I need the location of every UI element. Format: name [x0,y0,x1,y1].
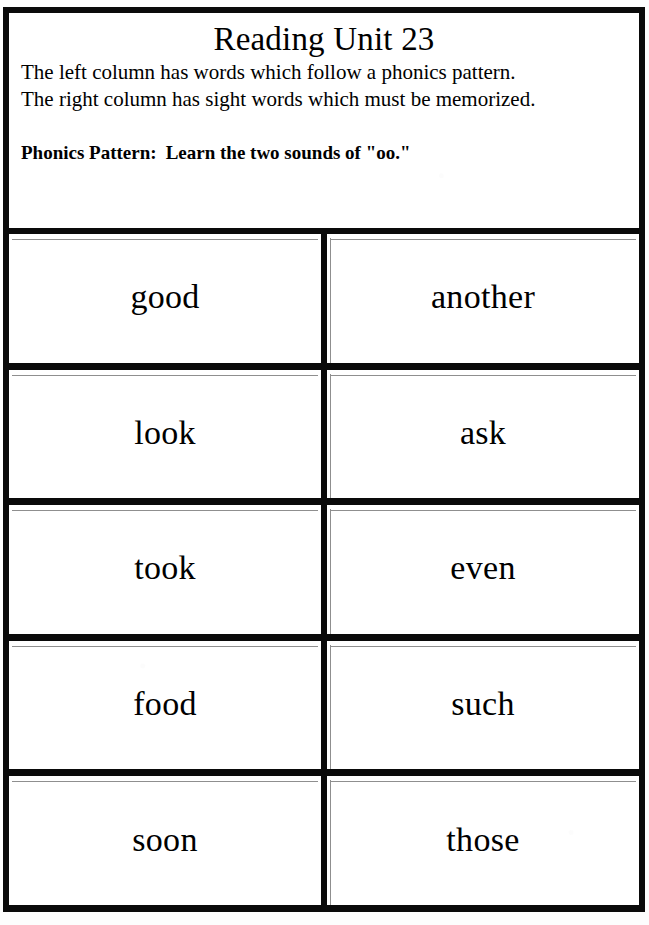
table-row: look ask [9,363,639,499]
phonics-pattern: Phonics Pattern:Learn the two sounds of … [21,141,629,165]
word-cell-sight[interactable]: even [327,505,639,634]
page-title: Reading Unit 23 [19,19,629,59]
phonics-pattern-label: Phonics Pattern: [21,142,157,163]
word-text: even [450,549,515,587]
word-text: soon [132,821,197,859]
worksheet-page: Reading Unit 23 The left column has word… [0,0,649,925]
word-text: such [451,685,515,723]
word-text: another [431,278,535,316]
word-text: food [133,685,197,723]
description-line-2: The right column has sight words which m… [21,86,629,113]
word-text: ask [460,414,506,452]
phonics-pattern-value: Learn the two sounds of "oo." [166,142,411,163]
table-row: good another [9,234,639,363]
word-text: good [130,278,199,316]
word-cell-phonics[interactable]: good [9,234,327,363]
word-text: look [134,414,196,452]
word-cell-sight[interactable]: such [327,641,639,770]
word-text: took [134,549,196,587]
word-cell-phonics[interactable]: took [9,505,327,634]
word-cell-sight[interactable]: another [327,234,639,363]
table-row: food such [9,634,639,770]
header-box: Reading Unit 23 The left column has word… [3,7,645,234]
word-cell-phonics[interactable]: look [9,370,327,499]
table-row: took even [9,498,639,634]
word-cell-phonics[interactable]: food [9,641,327,770]
description-line-1: The left column has words which follow a… [21,59,629,86]
word-cell-sight[interactable]: ask [327,370,639,499]
word-cell-phonics[interactable]: soon [9,776,327,905]
word-grid: good another look ask took even foo [3,234,645,912]
word-cell-sight[interactable]: those [327,776,639,905]
word-text: those [446,821,519,859]
table-row: soon those [9,769,639,905]
